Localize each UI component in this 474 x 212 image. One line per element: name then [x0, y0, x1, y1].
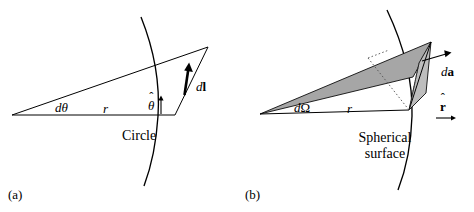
dl-arrow: [184, 63, 193, 96]
label-dl: dl: [196, 80, 206, 93]
theta-hat-arrow: [158, 96, 163, 115]
label-theta-hat: ˆ θ: [148, 99, 154, 112]
label-r-hat: ˆ r: [440, 100, 446, 113]
label-radius-a: r: [103, 102, 108, 115]
label-radius-b: r: [347, 102, 352, 115]
panel-b-drawing: [237, 0, 474, 212]
da-vector: a: [448, 64, 455, 79]
dl-vector: l: [203, 79, 207, 94]
spherical-caption-line2: surface: [349, 146, 421, 162]
label-d-omega: dΩ: [294, 101, 310, 114]
panel-a-tag: (a): [8, 188, 22, 201]
label-d-theta: dθ: [55, 101, 68, 114]
figure-container: dθ r ˆ θ dl Circle (a): [0, 0, 474, 212]
label-spherical-caption: Spherical surface: [349, 130, 421, 161]
label-circle-caption: Circle: [122, 129, 156, 143]
r-hat-accent: ˆ: [441, 92, 445, 104]
label-da: da: [441, 65, 454, 78]
spherical-arc: [387, 10, 412, 190]
cone-upper-face: [260, 42, 431, 114]
r-hat-arrow: [436, 116, 456, 121]
spherical-caption-line1: Spherical: [349, 130, 421, 146]
theta-hat-accent: ˆ: [149, 91, 153, 103]
panel-b-tag: (b): [245, 188, 260, 201]
d-omega-symbol: Ω: [301, 100, 311, 115]
panel-a-drawing: [0, 0, 237, 212]
cone-dotted-line-top: [368, 50, 389, 58]
panel-a-circle: dθ r ˆ θ dl Circle (a): [0, 0, 237, 212]
wedge-upper-ray: [12, 47, 208, 115]
wedge-baseline-b: [260, 110, 409, 114]
panel-b-spherical: dΩ r da ˆ r Spherical surface (b): [237, 0, 474, 212]
